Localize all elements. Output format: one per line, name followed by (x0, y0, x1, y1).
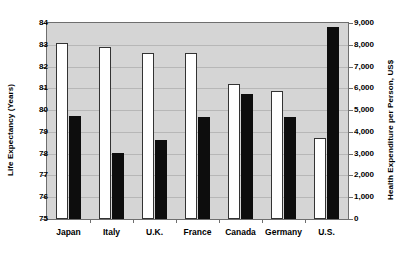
bar-life-expectancy-japan (56, 43, 68, 219)
category-separator (90, 219, 91, 223)
bar-health-expenditure-germany (284, 117, 296, 219)
category-separator (219, 219, 220, 223)
bar-life-expectancy-uk (142, 53, 154, 219)
y-axis-left-tick-label: 77 (8, 171, 48, 179)
y-axis-right-tick-label: 2,000 (354, 171, 394, 179)
tick-mark-right (349, 67, 353, 68)
y-axis-left-tick-label: 80 (8, 106, 48, 114)
bar-health-expenditure-france (198, 117, 210, 219)
bar-life-expectancy-italy (99, 47, 111, 219)
tick-mark-right (349, 175, 353, 176)
bar-health-expenditure-canada (241, 94, 253, 219)
y-axis-left-tick-label: 81 (8, 84, 48, 92)
bar-health-expenditure-japan (69, 116, 81, 219)
tick-mark-right (349, 110, 353, 111)
y-axis-left-tick-label: 82 (8, 63, 48, 71)
chart-container: Life Expectancy (Years) Health Expenditu… (0, 0, 403, 260)
tick-mark-right (349, 197, 353, 198)
y-axis-left-tick-label: 78 (8, 150, 48, 158)
y-axis-right-tick-label: 3,000 (354, 150, 394, 158)
category-separator (305, 219, 306, 223)
gridline (47, 67, 348, 68)
tick-mark-right (349, 45, 353, 46)
y-axis-left-tick-label: 76 (8, 193, 48, 201)
bar-health-expenditure-us (327, 27, 339, 219)
y-axis-right-tick-label: 5,000 (354, 106, 394, 114)
tick-mark-right (349, 23, 353, 24)
bar-health-expenditure-uk (155, 140, 167, 219)
gridline (47, 45, 348, 46)
y-axis-left-tick-label: 83 (8, 41, 48, 49)
y-axis-right-tick-label: 0 (354, 215, 394, 223)
bar-life-expectancy-us (314, 138, 326, 219)
y-axis-right-tick-label: 6,000 (354, 84, 394, 92)
y-axis-right-tick-label: 7,000 (354, 63, 394, 71)
tick-mark-right (349, 154, 353, 155)
plot-area (46, 22, 349, 220)
y-axis-right-tick-label: 4,000 (354, 128, 394, 136)
bar-life-expectancy-canada (228, 84, 240, 219)
y-axis-right-tick-label: 8,000 (354, 41, 394, 49)
bar-life-expectancy-france (185, 53, 197, 219)
bar-health-expenditure-italy (112, 153, 124, 219)
y-axis-left-tick-label: 75 (8, 215, 48, 223)
y-axis-left-tick-label: 79 (8, 128, 48, 136)
tick-mark-right (349, 219, 353, 220)
tick-mark-right (349, 132, 353, 133)
category-separator (133, 219, 134, 223)
x-axis-category-label: U.S. (295, 228, 358, 237)
gridline (47, 88, 348, 89)
y-axis-right-tick-label: 9,000 (354, 19, 394, 27)
bar-life-expectancy-germany (271, 91, 283, 219)
tick-mark-right (349, 88, 353, 89)
category-separator (262, 219, 263, 223)
y-axis-right-tick-label: 1,000 (354, 193, 394, 201)
category-separator (176, 219, 177, 223)
gridline (47, 110, 348, 111)
y-axis-left-tick-label: 84 (8, 19, 48, 27)
